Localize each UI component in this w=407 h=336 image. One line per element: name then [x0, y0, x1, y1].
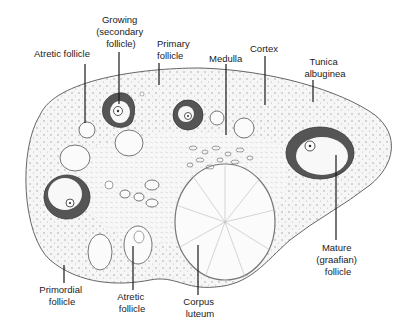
ovary-diagram: Atretic follicle Growing (secondary foll… [0, 0, 407, 336]
corpus-luteum [175, 164, 275, 280]
label-corpus-luteum: Corpus luteum [183, 296, 216, 319]
label-primary-follicle: Primary follicle [157, 38, 192, 61]
label-atretic-follicle-top: Atretic follicle [34, 48, 90, 59]
label-mature-follicle: Mature (graafian) follicle [316, 242, 359, 277]
label-primordial-follicle: Primordial follicle [39, 284, 84, 307]
label-growing-follicle: Growing (secondary follicle) [96, 14, 146, 49]
label-tunica-albuginea: Tunica albuginea [304, 56, 346, 79]
lower-left-follicle [44, 175, 90, 219]
label-medulla: Medulla [209, 53, 243, 64]
label-atretic-follicle-bottom: Atretic follicle [117, 291, 147, 314]
secondary-follicle-2 [173, 100, 203, 130]
mature-follicle [286, 127, 354, 179]
label-cortex: Cortex [250, 43, 278, 54]
atretic-follicle-inner [134, 231, 144, 243]
